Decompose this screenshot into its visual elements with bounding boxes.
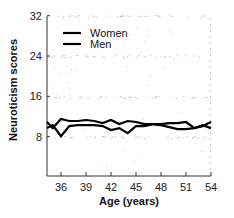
- x-tick-label: 42: [105, 181, 117, 193]
- x-tick-label: 39: [80, 181, 92, 193]
- y-tick-label: 16: [30, 90, 42, 102]
- y-axis-label-container: Neuroticism scores: [0, 20, 26, 160]
- data-lines: [47, 119, 211, 136]
- y-tick-label: 24: [30, 50, 42, 62]
- y-axis-label: Neuroticism scores: [7, 39, 19, 141]
- x-tick-label: 54: [205, 181, 217, 193]
- x-tick-label: 51: [180, 181, 192, 193]
- x-tick-label: 48: [155, 181, 167, 193]
- series-line-women: [47, 119, 211, 129]
- x-tick-label: 36: [55, 181, 67, 193]
- y-tick-label: 8: [36, 131, 42, 143]
- x-axis-label: Age (years): [47, 195, 211, 207]
- line-chart: 816243236394245485154 WomenMen: [0, 0, 234, 218]
- legend-label: Men: [90, 38, 111, 50]
- x-tick-label: 45: [130, 181, 142, 193]
- y-tick-label: 32: [30, 10, 42, 22]
- legend: WomenMen: [63, 27, 128, 50]
- background-scatter: [51, 15, 211, 170]
